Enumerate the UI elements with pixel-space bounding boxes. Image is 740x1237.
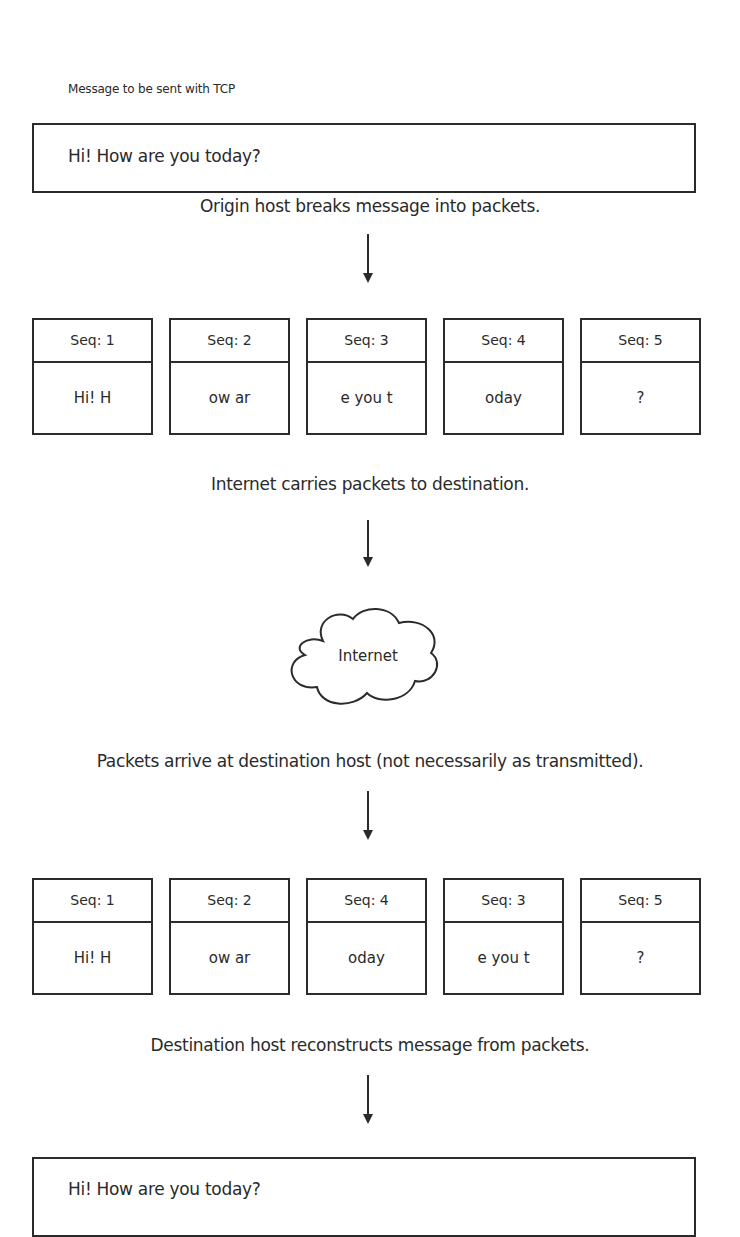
down-arrow-icon — [367, 791, 369, 831]
packet-payload: e you t — [308, 363, 425, 433]
step-caption-transport: Internet carries packets to destination. — [0, 474, 740, 494]
packet-seq: Seq: 2 — [171, 880, 288, 923]
packet: Seq: 3 e you t — [306, 318, 427, 435]
internet-cloud: Internet — [283, 601, 453, 713]
packet-payload: oday — [445, 363, 562, 433]
step-caption-reconstruct: Destination host reconstructs message fr… — [0, 1035, 740, 1055]
packet-seq: Seq: 4 — [445, 320, 562, 363]
down-arrow-icon — [367, 234, 369, 274]
step-caption-split: Origin host breaks message into packets. — [0, 196, 740, 216]
packet: Seq: 1 Hi! H — [32, 878, 153, 995]
packet: Seq: 5 ? — [580, 318, 701, 435]
packet-seq: Seq: 5 — [582, 320, 699, 363]
source-message-label: Message to be sent with TCP — [68, 82, 235, 96]
received-packets-row: Seq: 1 Hi! H Seq: 2 ow ar Seq: 4 oday Se… — [32, 878, 702, 995]
sent-packets-row: Seq: 1 Hi! H Seq: 2 ow ar Seq: 3 e you t… — [32, 318, 702, 435]
packet-seq: Seq: 4 — [308, 880, 425, 923]
packet-seq: Seq: 1 — [34, 320, 151, 363]
packet-seq: Seq: 1 — [34, 880, 151, 923]
down-arrow-icon — [367, 520, 369, 558]
packet: Seq: 2 ow ar — [169, 878, 290, 995]
source-message-text: Hi! How are you today? — [68, 146, 261, 166]
reconstructed-message-box: Hi! How are you today? — [32, 1157, 696, 1237]
packet: Seq: 1 Hi! H — [32, 318, 153, 435]
internet-label: Internet — [283, 647, 453, 665]
packet-payload: Hi! H — [34, 923, 151, 993]
packet-payload: oday — [308, 923, 425, 993]
packet-payload: Hi! H — [34, 363, 151, 433]
packet: Seq: 4 oday — [306, 878, 427, 995]
packet-seq: Seq: 2 — [171, 320, 288, 363]
packet: Seq: 2 ow ar — [169, 318, 290, 435]
packet-payload: e you t — [445, 923, 562, 993]
packet-seq: Seq: 3 — [445, 880, 562, 923]
packet: Seq: 3 e you t — [443, 878, 564, 995]
packet-payload: ? — [582, 923, 699, 993]
packet: Seq: 5 ? — [580, 878, 701, 995]
down-arrow-icon — [367, 1075, 369, 1115]
packet-payload: ow ar — [171, 363, 288, 433]
packet-payload: ? — [582, 363, 699, 433]
source-message-box: Hi! How are you today? — [32, 123, 696, 193]
packet-seq: Seq: 5 — [582, 880, 699, 923]
packet-payload: ow ar — [171, 923, 288, 993]
reconstructed-message-text: Hi! How are you today? — [68, 1179, 261, 1199]
packet: Seq: 4 oday — [443, 318, 564, 435]
step-caption-arrival: Packets arrive at destination host (not … — [0, 751, 740, 771]
packet-seq: Seq: 3 — [308, 320, 425, 363]
